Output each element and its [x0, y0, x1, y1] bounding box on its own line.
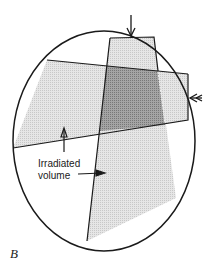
label-line-1: Irradiated [38, 158, 80, 169]
panel-letter: B [10, 246, 18, 262]
overlap-region [100, 66, 165, 131]
beam-arrow-right [190, 94, 202, 102]
irradiated-volume-label: Irradiated volume [38, 158, 80, 181]
irradiation-diagram [0, 0, 216, 264]
label-line-2: volume [38, 170, 80, 181]
beam-arrow-top [127, 15, 135, 36]
